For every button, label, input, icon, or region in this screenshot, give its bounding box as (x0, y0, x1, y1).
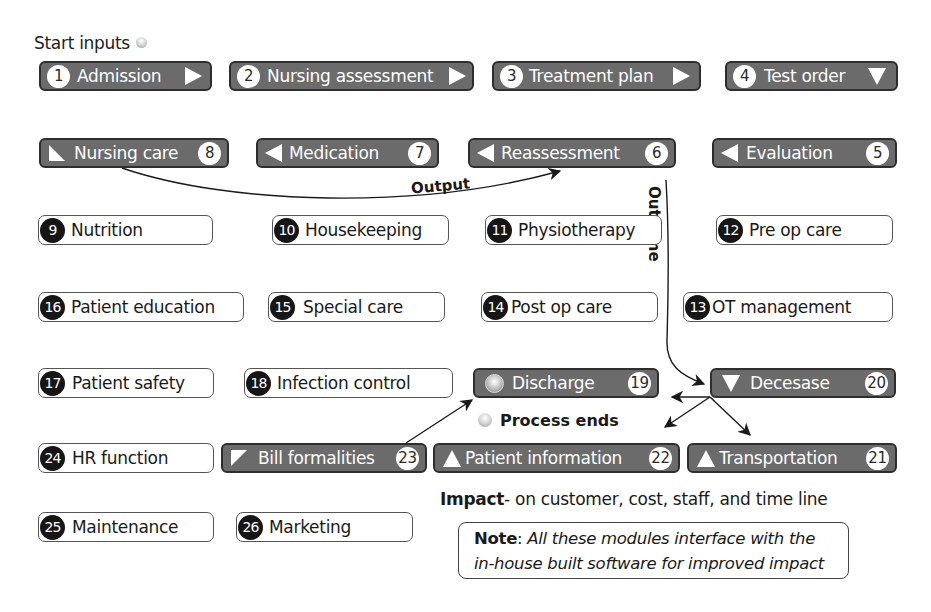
module-label: OT management (712, 297, 892, 317)
step-number: 23 (396, 447, 419, 470)
arrow-left-icon (477, 144, 494, 162)
module-patient-safety[interactable]: 17 Patient safety (38, 368, 214, 398)
module-hr-function[interactable]: 24 HR function (38, 443, 214, 473)
step-number: 1 (47, 65, 70, 88)
orb-icon (478, 413, 492, 427)
bill-to-discharge-arrow (406, 400, 472, 443)
module-nursing-care[interactable]: Nursing care 8 (39, 138, 229, 168)
step-number: 8 (198, 142, 221, 165)
step-number: 7 (408, 142, 431, 165)
module-reassessment[interactable]: Reassessment 6 (468, 138, 676, 168)
impact-caption: Impact- on customer, cost, staff, and ti… (440, 489, 827, 509)
module-physiotherapy[interactable]: 11 Physiotherapy (485, 215, 662, 245)
module-label: Treatment plan (529, 66, 673, 86)
impact-bold: Impact (440, 489, 504, 509)
module-label: Nursing assessment (267, 66, 449, 86)
step-number: 22 (649, 447, 672, 470)
process-ends-text: Process ends (500, 411, 619, 430)
module-admission[interactable]: 1 Admission (39, 61, 212, 91)
orb-icon (485, 374, 504, 393)
note-text-1: All these modules interface with the (527, 529, 815, 548)
step-number: 2 (237, 65, 260, 88)
module-label: Physiotherapy (518, 220, 661, 240)
step-number: 18 (246, 371, 271, 396)
module-label: HR function (72, 448, 213, 468)
module-label: Post op care (511, 297, 657, 317)
module-label: Transportation (719, 448, 866, 468)
process-ends-label: Process ends (478, 411, 619, 430)
module-label: Patient education (71, 297, 243, 317)
step-number: 3 (500, 65, 523, 88)
module-nutrition[interactable]: 9 Nutrition (38, 215, 213, 245)
module-special-care[interactable]: 15 Special care (268, 292, 445, 322)
module-infection-control[interactable]: 18 Infection control (244, 368, 453, 398)
module-label: Decesase (750, 373, 865, 393)
module-nursing-assessment[interactable]: 2 Nursing assessment (229, 61, 474, 91)
decease-to-transport-arrow (710, 397, 750, 435)
module-treatment-plan[interactable]: 3 Treatment plan (492, 61, 701, 91)
module-marketing[interactable]: 26 Marketing (236, 512, 413, 542)
start-inputs-label: Start inputs (34, 33, 147, 53)
note-box: Note: All these modules interface with t… (458, 522, 849, 579)
module-transportation[interactable]: Transportation 21 (687, 443, 897, 473)
arrow-up-icon (697, 450, 715, 467)
module-label: Nutrition (71, 220, 212, 240)
step-number: 13 (685, 295, 710, 320)
outcome-arrow (666, 180, 704, 384)
module-housekeeping[interactable]: 10 Housekeeping (272, 215, 449, 245)
step-number: 26 (238, 515, 263, 540)
arrow-right-icon (185, 67, 202, 85)
arrow-down-icon (722, 375, 740, 392)
arrow-corner-icon (49, 145, 65, 161)
step-number: 6 (645, 142, 668, 165)
step-number: 11 (487, 218, 512, 243)
arrow-corner-icon (231, 450, 247, 466)
module-bill-formalities[interactable]: Bill formalities 23 (221, 443, 427, 473)
module-label: Maintenance (72, 517, 213, 537)
step-number: 15 (270, 295, 295, 320)
arrow-right-icon (673, 67, 690, 85)
arrow-left-icon (265, 144, 282, 162)
note-line-2: in-house built software for improved imp… (474, 551, 848, 576)
arrow-down-icon (868, 68, 886, 85)
module-discharge[interactable]: Discharge 19 (473, 368, 659, 398)
module-evaluation[interactable]: Evaluation 5 (712, 138, 897, 168)
module-post-op-care[interactable]: 14 Post op care (481, 292, 658, 322)
module-ot-management[interactable]: 13 OT management (683, 292, 893, 322)
step-number: 20 (865, 372, 888, 395)
step-number: 24 (40, 446, 65, 471)
step-number: 9 (40, 218, 65, 243)
module-decesase[interactable]: Decesase 20 (710, 368, 896, 398)
module-label: Admission (77, 66, 185, 86)
module-label: Discharge (512, 373, 628, 393)
step-number: 17 (40, 371, 65, 396)
output-arrow (122, 168, 560, 198)
module-label: Reassessment (501, 143, 645, 163)
module-label: Marketing (269, 517, 412, 537)
step-number: 25 (40, 515, 65, 540)
module-label: Test order (764, 66, 868, 86)
module-label: Nursing care (74, 143, 198, 163)
orb-icon (136, 37, 147, 48)
arrow-left-icon (721, 144, 738, 162)
module-label: Bill formalities (258, 448, 396, 468)
note-line-1: Note: All these modules interface with t… (474, 526, 848, 551)
module-patient-education[interactable]: 16 Patient education (38, 292, 244, 322)
step-number: 5 (866, 142, 889, 165)
module-maintenance[interactable]: 25 Maintenance (38, 512, 214, 542)
start-inputs-text: Start inputs (34, 33, 130, 53)
note-bold: Note (474, 529, 517, 548)
decease-to-patientinfo-arrow (665, 397, 710, 427)
module-test-order[interactable]: 4 Test order (725, 61, 898, 91)
step-number: 21 (866, 447, 889, 470)
module-label: Housekeeping (305, 220, 448, 240)
module-patient-information[interactable]: Patient information 22 (433, 443, 680, 473)
module-label: Pre op care (749, 220, 892, 240)
module-label: Patient information (465, 448, 649, 468)
module-pre-op-care[interactable]: 12 Pre op care (716, 215, 893, 245)
step-number: 10 (274, 218, 299, 243)
module-label: Medication (289, 143, 408, 163)
module-label: Patient safety (72, 373, 213, 393)
module-medication[interactable]: Medication 7 (256, 138, 439, 168)
note-colon: : (517, 529, 527, 548)
